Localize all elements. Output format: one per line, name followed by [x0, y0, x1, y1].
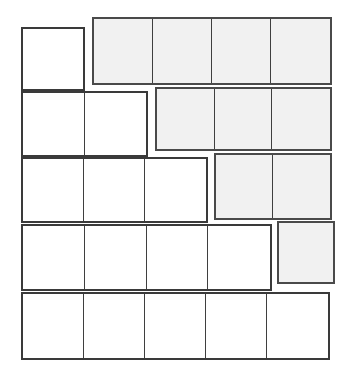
grid-cell: [206, 294, 267, 358]
grid-cell: [208, 226, 270, 289]
grid-cell: [212, 19, 271, 83]
grid-cell: [153, 19, 212, 83]
row-3-right-group: [214, 153, 332, 220]
row-2-right-group: [155, 87, 332, 151]
grid-cell: [267, 294, 328, 358]
grid-cell: [215, 89, 273, 149]
grid-cell: [157, 89, 215, 149]
grid-cell: [279, 223, 333, 282]
grid-cell: [23, 93, 85, 155]
row-5-full-group: [21, 292, 330, 360]
grid-cell: [145, 159, 206, 221]
grid-cell: [85, 93, 147, 155]
grid-cell: [147, 226, 209, 289]
grid-cell: [94, 19, 153, 83]
grid-cell: [273, 155, 330, 218]
diagram-canvas: [0, 0, 355, 375]
row-3-left-group: [21, 157, 208, 223]
row-4-left-group: [21, 224, 272, 291]
grid-cell: [272, 89, 330, 149]
row-1-left-group: [21, 27, 85, 91]
row-2-left-group: [21, 91, 148, 157]
row-4-right-group: [277, 221, 335, 284]
grid-cell: [84, 159, 145, 221]
grid-cell: [23, 29, 83, 89]
grid-cell: [23, 294, 84, 358]
grid-cell: [23, 226, 85, 289]
grid-cell: [84, 294, 145, 358]
grid-cell: [271, 19, 330, 83]
grid-cell: [145, 294, 206, 358]
row-1-right-group: [92, 17, 332, 85]
grid-cell: [23, 159, 84, 221]
grid-cell: [85, 226, 147, 289]
grid-cell: [216, 155, 273, 218]
